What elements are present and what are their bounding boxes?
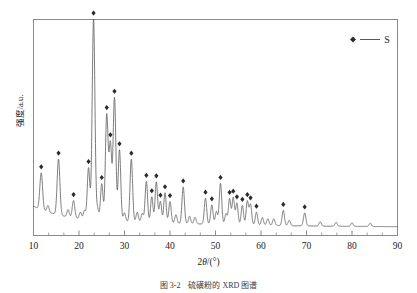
xrd-figure: 102030405060708090 S 2θ/(°) 强度/a.u. 图 3-… — [0, 0, 417, 293]
diamond-marker-icon — [163, 184, 167, 189]
diamond-marker-icon — [240, 197, 244, 202]
diamond-marker-icon — [129, 151, 133, 156]
x-axis-tick-labels: 102030405060708090 — [29, 241, 403, 251]
spectrum-trace — [34, 19, 398, 227]
xrd-plot: 102030405060708090 S — [0, 0, 417, 293]
x-tick-label: 90 — [393, 241, 403, 251]
x-tick-label: 70 — [302, 241, 312, 251]
diamond-marker-icon — [228, 190, 232, 195]
diamond-marker-icon — [117, 141, 121, 146]
diamond-marker-icon — [108, 132, 112, 137]
diamond-marker-icon — [281, 202, 285, 207]
diamond-marker-icon — [181, 178, 185, 183]
diamond-marker-icon — [210, 196, 214, 201]
y-axis-title: 强度/a.u. — [13, 76, 25, 146]
x-tick-label: 20 — [74, 241, 84, 251]
diamond-marker-icon — [231, 189, 235, 194]
x-tick-label: 60 — [256, 241, 266, 251]
peak-diamond-markers — [39, 10, 307, 209]
x-tick-label: 50 — [211, 241, 221, 251]
diamond-marker-icon — [150, 188, 154, 193]
figure-caption: 图 3-2 硫磺粉的 XRD 图谱 — [0, 279, 417, 290]
diamond-marker-icon — [39, 164, 43, 169]
diamond-marker-icon — [56, 150, 60, 155]
x-tick-label: 40 — [165, 241, 175, 251]
diamond-marker-icon — [154, 173, 158, 178]
diamond-marker-icon — [248, 195, 252, 200]
diamond-marker-icon — [254, 204, 258, 209]
legend: S — [338, 31, 396, 48]
x-tick-label: 10 — [29, 241, 39, 251]
plot-frame — [34, 20, 398, 236]
x-tick-label: 80 — [347, 241, 357, 251]
diamond-marker-icon — [112, 89, 116, 94]
diamond-marker-icon — [158, 193, 162, 198]
diamond-marker-icon — [235, 194, 239, 199]
legend-label: S — [384, 34, 390, 45]
diamond-marker-icon — [303, 204, 307, 209]
diamond-marker-icon — [168, 193, 172, 198]
x-axis-title: 2θ/(°) — [0, 257, 417, 267]
diamond-marker-icon — [71, 192, 75, 197]
diamond-marker-icon — [100, 175, 104, 180]
x-axis-title-text: 2θ/(°) — [197, 257, 219, 267]
x-tick-label: 30 — [120, 241, 130, 251]
diamond-marker-icon — [91, 10, 95, 15]
diamond-marker-icon — [105, 105, 109, 110]
diamond-marker-icon — [203, 190, 207, 195]
diamond-marker-icon — [86, 159, 90, 164]
diamond-marker-icon — [245, 192, 249, 197]
diamond-marker-icon — [218, 175, 222, 180]
x-axis-ticks — [34, 231, 398, 236]
diamond-marker-icon — [144, 173, 148, 178]
